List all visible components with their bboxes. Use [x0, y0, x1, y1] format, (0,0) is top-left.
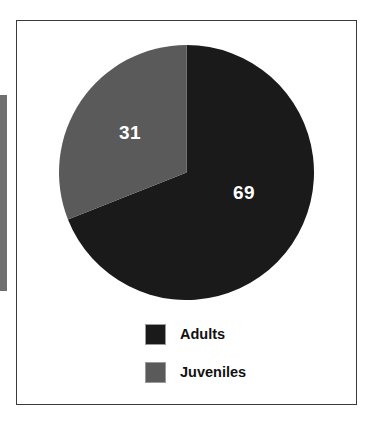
legend-label-adults: Adults [180, 326, 225, 342]
pie-chart: 31 69 [59, 45, 314, 300]
legend-label-juveniles: Juveniles [180, 364, 246, 380]
figure-page: 31 69 Adults Juveniles [0, 0, 374, 431]
legend-item-juveniles[interactable]: Juveniles [145, 357, 335, 387]
figure-frame: 31 69 Adults Juveniles [16, 20, 357, 405]
pie-label-juveniles: 31 [119, 123, 141, 142]
legend-swatch-juveniles [145, 362, 166, 383]
chart-legend: Adults Juveniles [145, 319, 335, 395]
left-edge-scan-artifact [0, 95, 7, 291]
legend-swatch-adults [145, 324, 166, 345]
pie-svg [59, 45, 314, 300]
legend-item-adults[interactable]: Adults [145, 319, 335, 349]
pie-label-adults: 69 [233, 183, 255, 202]
